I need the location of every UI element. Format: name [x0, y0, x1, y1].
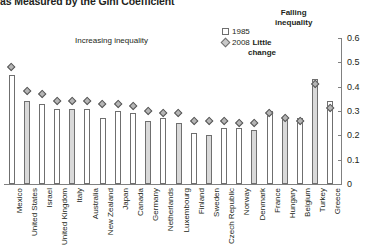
y-axis-tick-label: 0 [347, 179, 352, 189]
bar-1985 [221, 128, 227, 184]
y-axis-tick-label: 0.2 [347, 130, 360, 140]
bar-1985 [24, 101, 30, 184]
x-axis-label: United Kingdom [60, 188, 69, 245]
plot-area [4, 38, 338, 184]
x-axis-label: Mexico [15, 188, 24, 213]
marker-2008 [250, 119, 259, 128]
bar-group [141, 38, 156, 184]
gini-inequality-chart: as Measured by the Gini Coefficient 1985… [0, 0, 371, 249]
bar-group [80, 38, 95, 184]
x-axis-label: United States [30, 188, 39, 236]
bar-group [65, 38, 80, 184]
marker-2008 [113, 99, 122, 108]
y-axis-tick-label: 0.4 [347, 82, 360, 92]
x-axis-label: Germany [151, 188, 160, 221]
bar-group [156, 38, 171, 184]
bar-1985 [115, 111, 121, 184]
bar-group [217, 38, 232, 184]
bar-1985 [176, 123, 182, 184]
x-axis-label: Greece [333, 188, 342, 214]
x-axis-label: Italy [75, 188, 84, 203]
marker-2008 [129, 102, 138, 111]
x-axis-label: Finland [197, 188, 206, 214]
marker-2008 [159, 109, 168, 118]
bar-1985 [267, 111, 273, 184]
x-axis-label: Japan [121, 188, 130, 210]
bar-1985 [84, 109, 90, 184]
marker-2008 [144, 106, 153, 115]
x-axis-label: France [273, 188, 282, 213]
bar-1985 [206, 135, 212, 184]
legend-item-1985: 1985 [222, 26, 250, 37]
bar-group [292, 38, 307, 184]
marker-2008 [83, 97, 92, 106]
annotation-falling-inequality-line1: Falling [275, 8, 312, 18]
bar-group [4, 38, 19, 184]
bar-group [110, 38, 125, 184]
bar-group [34, 38, 49, 184]
x-axis-baseline [4, 184, 342, 185]
bar-group [171, 38, 186, 184]
bar-group [125, 38, 140, 184]
x-axis-label: Sweden [212, 188, 221, 217]
x-axis-label: Australia [91, 188, 100, 219]
y-axis-tick [338, 184, 342, 185]
bar-group [232, 38, 247, 184]
x-axis-label: Israel [45, 188, 54, 208]
bar-1985 [130, 113, 136, 184]
bar-group [186, 38, 201, 184]
y-axis-tick [338, 62, 342, 63]
x-axis-label: Czech Republic [227, 188, 236, 244]
marker-2008 [204, 116, 213, 125]
y-axis-tick-label: 0.1 [347, 155, 360, 165]
y-axis-tick [338, 111, 342, 112]
x-axis-label: Canada [136, 188, 145, 216]
open-square-icon [222, 28, 229, 35]
x-axis-label: Netherlands [166, 188, 175, 231]
marker-2008 [235, 119, 244, 128]
annotation-falling-inequality: Falling inequality [275, 8, 312, 27]
x-axis-label: New Zealand [106, 188, 115, 235]
bar-1985 [69, 109, 75, 184]
bar-1985 [39, 104, 45, 184]
bar-group [19, 38, 34, 184]
bar-1985 [9, 75, 15, 185]
marker-2008 [174, 109, 183, 118]
marker-2008 [22, 87, 31, 96]
marker-2008 [189, 116, 198, 125]
page-title: as Measured by the Gini Coefficient [0, 0, 174, 7]
bar-group [323, 38, 338, 184]
bar-1985 [297, 118, 303, 184]
y-axis-tick [338, 135, 342, 136]
legend-label-1985: 1985 [232, 26, 250, 37]
bar-group [308, 38, 323, 184]
bar-1985 [327, 101, 333, 184]
x-axis-label: Norway [242, 188, 251, 215]
marker-2008 [220, 116, 229, 125]
bar-1985 [251, 130, 257, 184]
y-axis: 0.60.50.40.30.20.10 [341, 38, 342, 184]
x-axis-label: Belgium [303, 188, 312, 217]
bar-group [201, 38, 216, 184]
y-axis-tick-label: 0.5 [347, 57, 360, 67]
y-axis-tick-label: 0.6 [347, 33, 360, 43]
x-axis-label: Turkey [318, 188, 327, 212]
y-axis-tick-label: 0.3 [347, 106, 360, 116]
y-axis-tick [338, 38, 342, 39]
bar-1985 [282, 118, 288, 184]
bar-1985 [145, 121, 151, 184]
y-axis-tick [338, 87, 342, 88]
marker-2008 [7, 63, 16, 72]
bar-group [262, 38, 277, 184]
annotation-falling-inequality-line2: inequality [275, 18, 312, 28]
bar-1985 [312, 79, 318, 184]
bar-group [95, 38, 110, 184]
bar-1985 [54, 109, 60, 184]
marker-2008 [98, 99, 107, 108]
y-axis-tick [338, 160, 342, 161]
bar-group [277, 38, 292, 184]
x-axis-label: Hungary [288, 188, 297, 218]
bar-1985 [160, 118, 166, 184]
marker-2008 [37, 89, 46, 98]
bar-1985 [100, 118, 106, 184]
